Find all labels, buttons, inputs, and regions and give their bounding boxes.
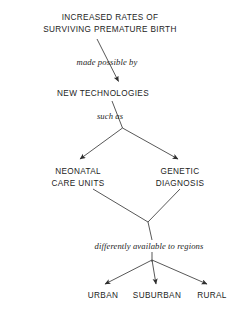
edge-split-to-neonatal	[80, 128, 123, 159]
increased-rates-line-1: INCREASED RATES OF	[43, 12, 176, 24]
region-label-rural: RURAL	[197, 290, 227, 302]
edge-lines-layer	[0, 0, 245, 309]
edge-fan-to-urban	[105, 260, 152, 284]
region-label-suburban: SUBURBAN	[133, 290, 181, 302]
increased-rates-node: INCREASED RATES OF SURVIVING PREMATURE B…	[43, 12, 176, 35]
edge-label-such-as: such as	[97, 111, 123, 121]
edge-fan-to-suburban	[152, 260, 156, 284]
region-label-urban: URBAN	[88, 290, 118, 302]
edge-genetic-to-merge	[148, 189, 180, 222]
genetic-diagnosis-node: GENETIC DIAGNOSIS	[156, 166, 205, 189]
edge-split-to-genetic	[123, 128, 179, 159]
neonatal-care-units-node: NEONATAL CARE UNITS	[51, 166, 104, 189]
diagram-canvas: INCREASED RATES OF SURVIVING PREMATURE B…	[0, 0, 245, 309]
genetic-line-1: GENETIC	[156, 166, 205, 178]
region-node-rural: RURAL	[197, 290, 227, 302]
increased-rates-line-2: SURVIVING PREMATURE BIRTH	[43, 24, 176, 36]
new-technologies-node: NEW TECHNOLOGIES	[57, 88, 149, 100]
neonatal-line-1: NEONATAL	[51, 166, 104, 178]
neonatal-line-2: CARE UNITS	[51, 178, 104, 190]
edge-label-differently-available: differently available to regions	[95, 241, 204, 251]
edge-fan-to-rural	[152, 260, 207, 284]
region-node-urban: URBAN	[88, 290, 118, 302]
region-node-suburban: SUBURBAN	[133, 290, 181, 302]
genetic-line-2: DIAGNOSIS	[156, 178, 205, 190]
edge-neonatal-to-merge	[93, 189, 148, 222]
new-technologies-label: NEW TECHNOLOGIES	[57, 88, 149, 100]
edge-label-made-possible-by: made possible by	[77, 57, 138, 67]
edge-merge-stem	[148, 222, 152, 240]
